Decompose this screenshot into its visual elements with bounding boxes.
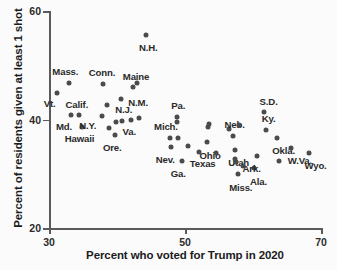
data-point-label: Calif. [66,98,89,109]
data-point-label: Hawaii [65,133,95,144]
x-tick-mark [321,228,323,234]
data-point [135,80,140,85]
data-point [236,172,241,177]
data-point [136,116,141,121]
data-point [274,135,279,140]
y-tick-label: 20 [29,222,41,234]
data-point [119,119,124,124]
x-tick-mark [185,228,187,234]
data-point-label: Miss. [229,181,252,192]
data-point-label: Ala. [250,175,267,186]
data-point [128,117,133,122]
data-point [237,122,242,127]
data-point [205,140,210,145]
data-point-label: N.H. [139,42,158,53]
data-point [69,112,74,117]
x-axis-title: Percent who voted for Trump in 2020 [49,249,321,261]
x-tick-mark [49,228,51,234]
y-tick-label: 40 [29,114,41,126]
data-point [276,158,281,163]
data-point [255,154,260,159]
data-point-label: Ore. [103,141,122,152]
data-point-label: Ky. [262,112,276,123]
data-point-label: N.M. [128,96,148,107]
data-point-label: Va. [123,126,136,137]
data-point [67,80,72,85]
data-point-label: Ga. [171,167,186,178]
data-point [168,135,173,140]
x-tick-label: 30 [43,236,55,248]
data-point [230,134,235,139]
data-point [185,144,190,149]
data-point [176,136,181,141]
data-point [234,159,239,164]
data-point [113,119,118,124]
data-point [100,114,105,119]
data-point-label: Conn. [89,66,115,77]
data-point [112,132,117,137]
data-point [55,90,60,95]
scatter-chart: 204060 305070 Percent who voted for Trum… [0,0,337,270]
data-point-label: N.Y. [79,119,96,130]
x-tick-label: 50 [179,236,191,248]
data-point-label: Nev. [156,154,175,165]
y-tick-label: 60 [29,5,41,17]
data-point-label: Ark. [243,163,261,174]
data-point [263,127,268,132]
data-point [106,126,111,131]
data-point-label: S.D. [260,96,278,107]
data-point [168,145,173,150]
data-point-label: Pa. [171,99,185,110]
data-point [131,85,136,90]
data-point [174,119,179,124]
data-point [105,103,110,108]
data-point [76,113,81,118]
data-point [101,81,106,86]
data-point [206,121,211,126]
x-tick-label: 70 [315,236,327,248]
y-axis-title: Percent of residents given at least 1 sh… [12,3,24,233]
data-point-label: Wyo. [304,159,326,170]
data-point-label: Md. [56,121,72,132]
data-point [119,96,124,101]
data-point [214,151,219,156]
data-point-label: Vt. [44,98,56,109]
data-point [144,32,149,37]
data-point [232,147,237,152]
data-point [179,158,184,163]
data-point [289,145,294,150]
data-point [307,150,312,155]
data-point-label: Mass. [52,65,78,76]
